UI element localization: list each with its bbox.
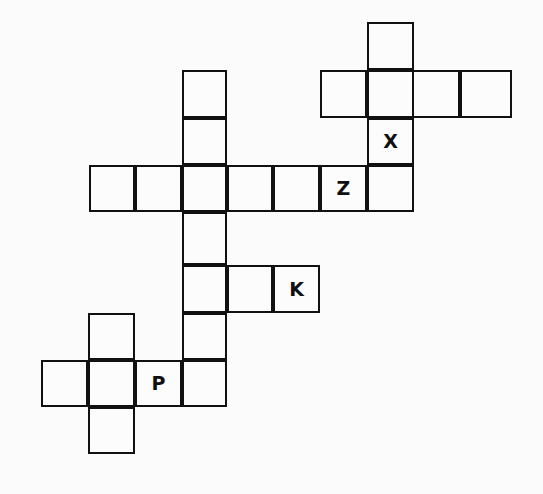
cell-r6-c1[interactable] xyxy=(88,313,135,360)
cell-r7-c2[interactable]: P xyxy=(135,360,182,407)
cell-r6-c3[interactable] xyxy=(182,313,227,360)
cell-r8-c1[interactable] xyxy=(88,407,135,454)
cell-r1-c6[interactable] xyxy=(320,70,367,118)
cell-r5-c4[interactable] xyxy=(227,265,273,313)
cell-r4-c3[interactable] xyxy=(182,212,227,265)
crossword-grid-canvas: XZKP xyxy=(0,0,543,494)
cell-letter-p: P xyxy=(152,374,166,393)
cell-r1-c9[interactable] xyxy=(460,70,512,118)
cell-r2-c7[interactable]: X xyxy=(367,118,414,165)
cell-letter-z: Z xyxy=(337,179,351,198)
cell-r0-c7[interactable] xyxy=(367,22,414,70)
cell-r7-c3[interactable] xyxy=(182,360,227,407)
cell-r1-c7[interactable] xyxy=(367,70,414,118)
cell-letter-k: K xyxy=(289,280,304,299)
cell-r3-c6[interactable] xyxy=(367,165,414,212)
cell-r7-c0[interactable] xyxy=(41,360,88,407)
cell-r3-c0[interactable] xyxy=(89,165,135,212)
cell-r3-c3[interactable] xyxy=(227,165,273,212)
cell-r5-c5[interactable]: K xyxy=(273,265,320,313)
cell-r3-c5[interactable]: Z xyxy=(320,165,367,212)
cell-r7-c1[interactable] xyxy=(88,360,135,407)
cell-r2-c3[interactable] xyxy=(182,118,227,165)
cell-r3-c1[interactable] xyxy=(135,165,182,212)
cell-r3-c2[interactable] xyxy=(182,165,227,212)
cell-r1-c3[interactable] xyxy=(182,70,227,118)
cell-r1-c8[interactable] xyxy=(412,70,460,118)
cell-r3-c4[interactable] xyxy=(273,165,320,212)
cell-r5-c3[interactable] xyxy=(182,265,227,313)
cell-letter-x: X xyxy=(383,132,398,151)
